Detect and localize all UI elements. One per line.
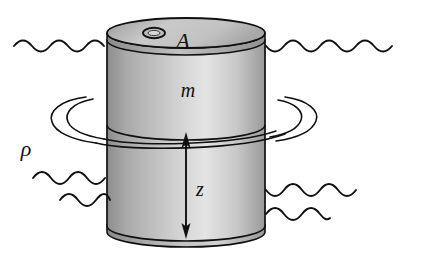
wave-left-lower-1: [33, 172, 105, 184]
water-surface-left: [14, 41, 104, 52]
buoyancy-figure: A m z ρ: [0, 0, 421, 261]
wave-left-lower-2: [60, 194, 110, 206]
swirl-arc-inner-left: [67, 99, 104, 139]
figure-canvas: A m z ρ: [0, 0, 421, 261]
label-depth-z: z: [195, 178, 204, 200]
label-area-A: A: [174, 28, 190, 53]
cylinder-top-hole-inner: [148, 30, 160, 35]
label-mass-m: m: [181, 79, 195, 101]
water-surface-right: [266, 41, 392, 52]
label-density-rho: ρ: [20, 136, 32, 161]
wave-right-lower-1: [266, 184, 356, 196]
wave-right-lower-2: [266, 208, 330, 220]
